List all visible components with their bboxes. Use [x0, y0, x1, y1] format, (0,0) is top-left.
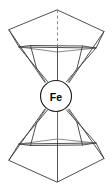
top-outer-pentagon-outline — [9, 10, 104, 48]
bottom-outer-pentagon-outline — [9, 143, 104, 182]
top-lateral-edge-left — [19, 47, 48, 82]
bottom-lateral-edge-left — [19, 110, 48, 144]
bottom-lateral-edge-far-right — [69, 109, 104, 159]
polyhedron-diagram: Pentagonal bipyramidal Fe coordination p… — [0, 0, 112, 191]
polyhedron-figure: Pentagonal bipyramidal Fe coordination p… — [0, 0, 112, 191]
top-pyramid-group — [9, 10, 104, 83]
fe-atom-icon: Fe — [41, 81, 72, 112]
bond-bottom-far-right — [68, 110, 77, 123]
bond-top-far-left — [37, 68, 46, 82]
bond-top-far-right — [68, 69, 77, 83]
top-lateral-edge-far-right — [69, 32, 104, 83]
bond-bottom-far-left — [37, 110, 46, 124]
bottom-pyramid-group — [9, 109, 104, 182]
fe-atom-label: Fe — [50, 91, 63, 103]
